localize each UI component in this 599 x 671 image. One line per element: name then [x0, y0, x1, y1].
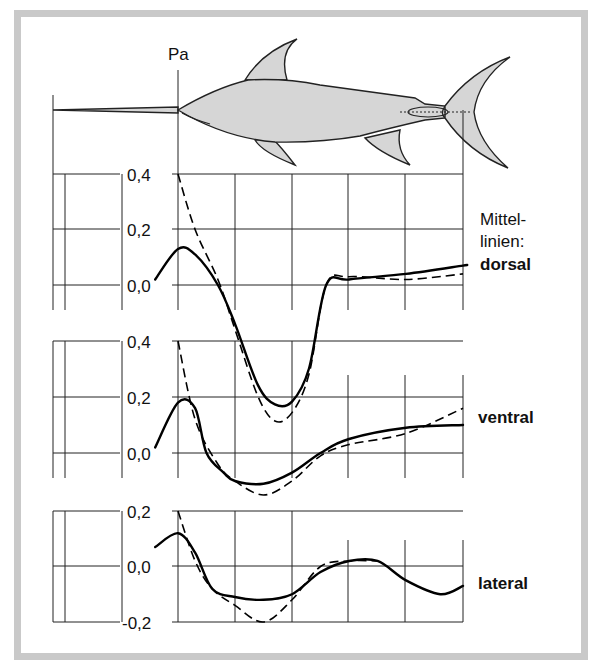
ventral-solid-curve	[155, 399, 463, 484]
dorsal-dashed-curve	[178, 174, 463, 422]
legend-heading-line1: Mittel-	[480, 210, 526, 229]
ventral-label: ventral	[478, 408, 534, 427]
lateral-solid-curve	[155, 533, 463, 600]
ventral-tick-1: 0,2	[127, 389, 151, 408]
dorsal-label: dorsal	[480, 255, 531, 274]
fish-anal-fin	[365, 130, 410, 165]
lateral-tick-0: 0,2	[127, 503, 151, 522]
pressure-chart: Pa 0,4 0,2 0,0 0,4 0,2 0,0 0,2 0,0 -0,2 …	[0, 0, 599, 671]
dorsal-tick-0: 0,4	[127, 166, 151, 185]
lateral-label: lateral	[478, 574, 528, 593]
unit-label: Pa	[168, 45, 189, 64]
legend-heading-line2: linien:	[480, 232, 524, 251]
dorsal-tick-1: 0,2	[127, 221, 151, 240]
dorsal-tick-2: 0,0	[127, 277, 151, 296]
ventral-dashed-curve	[178, 341, 463, 495]
ventral-tick-0: 0,4	[127, 333, 151, 352]
fish-tail-fin	[445, 57, 510, 168]
lateral-tick-1: 0,0	[127, 558, 151, 577]
dorsal-solid-curve	[155, 247, 467, 406]
ventral-tick-2: 0,0	[127, 445, 151, 464]
fish-bill	[53, 107, 178, 113]
lateral-tick-2: -0,2	[122, 614, 151, 633]
fish-dorsal-fin	[245, 39, 297, 80]
data-curves	[155, 174, 467, 622]
fish-body	[178, 80, 445, 143]
grid-lines	[53, 174, 463, 622]
swordfish-illustration	[53, 39, 510, 174]
